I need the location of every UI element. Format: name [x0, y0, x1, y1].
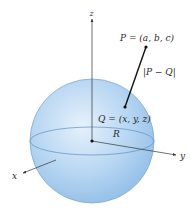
- distance-label: |P − Q|: [143, 67, 176, 78]
- origin-point: [90, 139, 93, 142]
- diagram-canvas: z y x R P = (a, b, c) |P − Q| Q = (x, y,…: [0, 0, 190, 211]
- point-p-label: P = (a, b, c): [119, 33, 174, 43]
- sphere-diagram: z y x R P = (a, b, c) |P − Q| Q = (x, y,…: [0, 0, 190, 211]
- y-axis-label: y: [179, 151, 186, 161]
- point-p: [144, 45, 147, 48]
- x-axis-label: x: [12, 171, 17, 181]
- radius-label: R: [112, 129, 120, 139]
- point-q: [123, 105, 126, 108]
- point-q-label: Q = (x, y, z): [98, 114, 151, 124]
- z-axis-label: z: [89, 9, 95, 18]
